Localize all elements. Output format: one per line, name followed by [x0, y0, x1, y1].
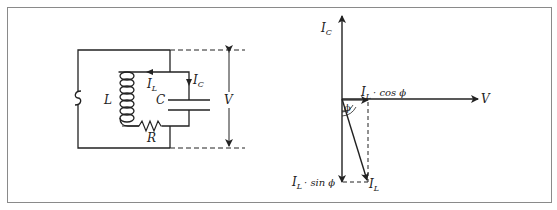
capacitor-label: C	[156, 93, 165, 107]
il-circuit-label: IL	[146, 77, 157, 93]
phasor-diagram	[342, 16, 478, 182]
resistor-label: R	[146, 131, 156, 145]
voltage-label: V	[224, 93, 234, 107]
sin-component-label: IL· sin ϕ	[291, 175, 335, 191]
ac-source-icon	[75, 91, 81, 105]
il-phasor-label: IL	[368, 177, 379, 193]
ic-phasor-label: IC	[320, 21, 332, 37]
angle-label: ϕ	[344, 102, 351, 113]
v-phasor-label: V	[481, 92, 491, 106]
ic-circuit-label: IC	[192, 73, 204, 89]
inductor-label: L	[103, 93, 112, 107]
inductor-coil-icon	[119, 72, 139, 126]
figure-canvas: IL IC L C R V IC V ϕ IL· cos ϕ IL· sin ϕ…	[0, 0, 557, 210]
